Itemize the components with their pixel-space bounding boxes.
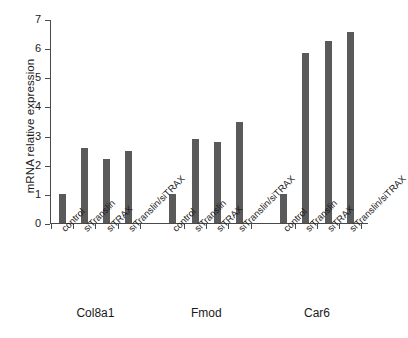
- category-labels: controlsiTranslinsiTRAXsiTranslin/siTRAX…: [50, 226, 368, 300]
- y-axis-tick-label: 4: [35, 100, 41, 113]
- group-labels: Col8a1FmodCar6: [50, 306, 368, 326]
- bar: [302, 53, 309, 223]
- y-axis-tick-label: 7: [35, 13, 41, 26]
- y-axis-tick: 1: [45, 195, 50, 196]
- y-axis-tick-label: 1: [35, 188, 41, 201]
- y-axis-tick: 3: [45, 137, 50, 138]
- bar: [325, 41, 332, 223]
- y-axis-tick: 7: [45, 20, 50, 21]
- y-axis-tick-label: 6: [35, 42, 41, 55]
- y-axis-tick: 6: [45, 49, 50, 50]
- y-axis-tick-label: 2: [35, 159, 41, 172]
- bar: [280, 194, 287, 223]
- group-label: Col8a1: [55, 306, 135, 321]
- y-axis-tick: 2: [45, 166, 50, 167]
- y-axis-tick-label: 5: [35, 71, 41, 84]
- group-label: Fmod: [166, 306, 246, 321]
- bar: [347, 32, 354, 223]
- plot-area: 01234567: [50, 20, 368, 224]
- y-axis-tick: 0: [45, 224, 50, 225]
- y-axis-tick-label: 3: [35, 130, 41, 143]
- y-axis-line: [50, 20, 51, 224]
- y-axis-tick-label: 0: [35, 217, 41, 230]
- y-axis-tick: 5: [45, 78, 50, 79]
- group-label: Car6: [277, 306, 357, 321]
- y-axis-tick: 4: [45, 107, 50, 108]
